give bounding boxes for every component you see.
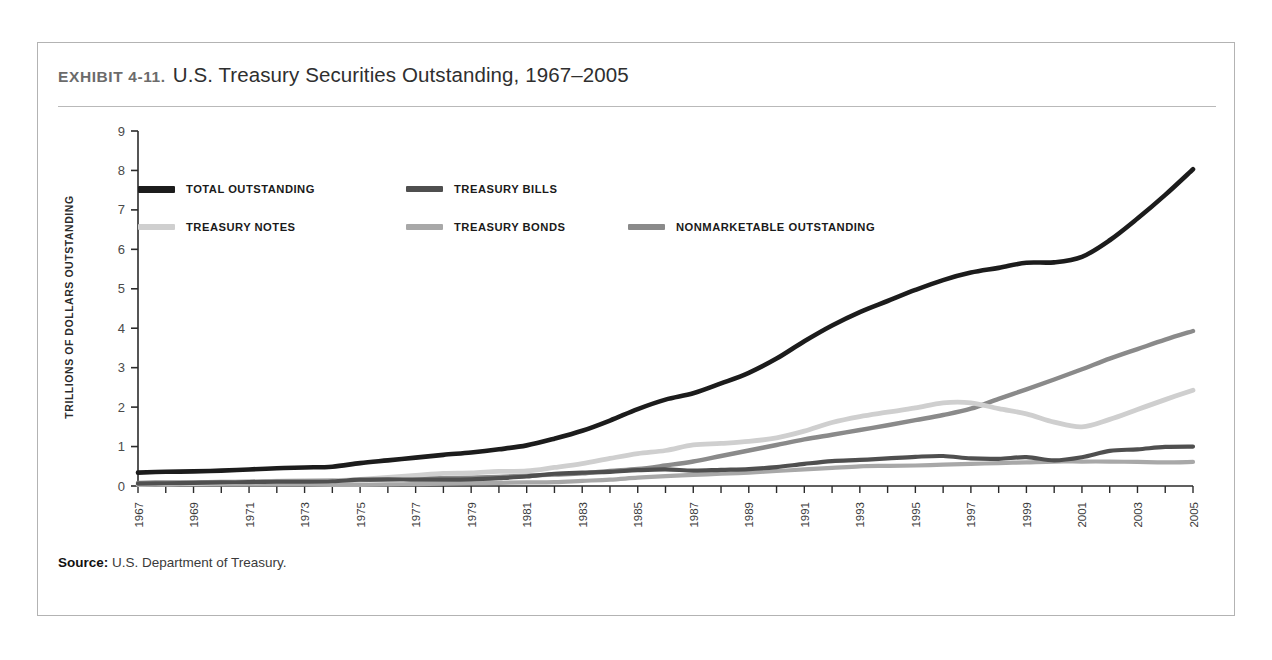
exhibit-caption: U.S. Treasury Securities Outstanding, 19…	[173, 63, 629, 86]
svg-text:1: 1	[118, 439, 125, 454]
exhibit-figure-frame: EXHIBIT 4-11.U.S. Treasury Securities Ou…	[37, 42, 1235, 616]
legend-label-treasury-bonds: TREASURY BONDS	[454, 221, 565, 233]
svg-text:2: 2	[118, 400, 125, 415]
svg-text:1973: 1973	[299, 502, 311, 528]
svg-text:1975: 1975	[355, 502, 367, 528]
legend-label-treasury-notes: TREASURY NOTES	[186, 221, 296, 233]
header-divider	[58, 106, 1216, 107]
svg-text:8: 8	[118, 163, 125, 178]
legend-item-treasury-bills: TREASURY BILLS	[406, 183, 557, 195]
legend-swatch-total-outstanding	[138, 186, 175, 193]
svg-text:1977: 1977	[410, 502, 422, 528]
svg-text:1999: 1999	[1021, 502, 1033, 528]
legend-swatch-treasury-notes	[138, 224, 175, 230]
source-label: Source:	[58, 555, 108, 570]
source-note: Source: U.S. Department of Treasury.	[58, 555, 287, 570]
svg-text:0: 0	[118, 479, 125, 494]
legend-label-total-outstanding: TOTAL OUTSTANDING	[186, 183, 315, 195]
legend-swatch-treasury-bills	[406, 186, 443, 192]
svg-text:2005: 2005	[1188, 502, 1200, 528]
svg-text:1997: 1997	[965, 502, 977, 528]
svg-text:2003: 2003	[1132, 502, 1144, 528]
legend-item-treasury-bonds: TREASURY BONDS	[406, 221, 628, 233]
svg-text:1983: 1983	[577, 502, 589, 528]
svg-text:7: 7	[118, 202, 125, 217]
svg-text:1985: 1985	[632, 502, 644, 528]
svg-text:5: 5	[118, 281, 125, 296]
legend-item-nonmarketable-outstanding: NONMARKETABLE OUTSTANDING	[628, 221, 875, 233]
legend-row-1: TOTAL OUTSTANDING TREASURY BILLS	[138, 177, 1118, 201]
exhibit-title: EXHIBIT 4-11.U.S. Treasury Securities Ou…	[58, 63, 1216, 87]
svg-text:6: 6	[118, 242, 125, 257]
source-text: U.S. Department of Treasury.	[108, 555, 286, 570]
exhibit-number-label: EXHIBIT 4-11.	[58, 68, 166, 85]
svg-text:1981: 1981	[521, 502, 533, 528]
svg-text:1979: 1979	[466, 502, 478, 528]
svg-text:3: 3	[118, 360, 125, 375]
legend-swatch-nonmarketable-outstanding	[628, 224, 665, 230]
legend-item-treasury-notes: TREASURY NOTES	[138, 221, 406, 233]
svg-text:2001: 2001	[1076, 502, 1088, 528]
svg-text:1987: 1987	[688, 502, 700, 528]
svg-text:1995: 1995	[910, 502, 922, 528]
svg-text:4: 4	[118, 321, 125, 336]
legend-swatch-treasury-bonds	[406, 224, 443, 230]
legend-row-2: TREASURY NOTES TREASURY BONDS NONMARKETA…	[138, 215, 1118, 239]
svg-text:9: 9	[118, 124, 125, 139]
svg-text:1989: 1989	[743, 502, 755, 528]
legend-label-nonmarketable-outstanding: NONMARKETABLE OUTSTANDING	[676, 221, 875, 233]
chart-legend: TOTAL OUTSTANDING TREASURY BILLS TREASUR…	[138, 177, 1118, 239]
svg-text:1991: 1991	[799, 502, 811, 528]
svg-text:1969: 1969	[188, 502, 200, 528]
exhibit-header: EXHIBIT 4-11.U.S. Treasury Securities Ou…	[58, 63, 1216, 109]
svg-text:1971: 1971	[244, 502, 256, 528]
chart-plot-area: TRILLIONS OF DOLLARS OUTSTANDING 0123456…	[38, 121, 1236, 551]
svg-text:1967: 1967	[133, 502, 145, 528]
legend-item-total-outstanding: TOTAL OUTSTANDING	[138, 183, 406, 195]
legend-label-treasury-bills: TREASURY BILLS	[454, 183, 557, 195]
svg-text:1993: 1993	[854, 502, 866, 528]
